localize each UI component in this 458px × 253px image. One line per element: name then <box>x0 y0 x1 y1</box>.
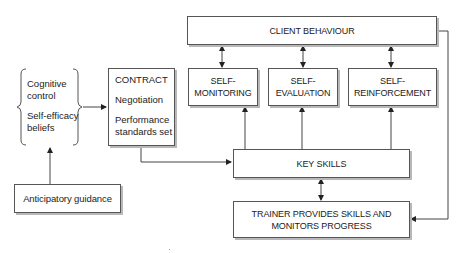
trainer-label-line2: MONITORS PROGRESS <box>271 220 371 232</box>
self-evaluation-label-line2: EVALUATION <box>276 87 331 99</box>
trainer-box: TRAINER PROVIDES SKILLS AND MONITORS PRO… <box>233 201 410 238</box>
trainer-label-line1: TRAINER PROVIDES SKILLS AND <box>252 208 392 220</box>
self-evaluation-label-line1: SELF- <box>290 75 315 87</box>
anticipatory-guidance-label: Anticipatory guidance <box>23 193 112 205</box>
diagram-canvas: CLIENT BEHAVIOUR SELF- MONITORING SELF- … <box>0 0 458 253</box>
beliefs-beliefs: beliefs <box>27 122 54 134</box>
beliefs-control: control <box>27 90 56 102</box>
beliefs-group: Cognitive control Self-efficacy beliefs <box>17 68 83 146</box>
beliefs-self-efficacy: Self-efficacy <box>27 110 79 122</box>
contract-box: CONTRACT Negotiation Performance standar… <box>108 68 175 146</box>
contract-standards-set: standards set <box>115 126 172 138</box>
self-reinforcement-box: SELF- REINFORCEMENT <box>348 68 437 106</box>
anticipatory-guidance-box: Anticipatory guidance <box>14 184 121 213</box>
stray-mark <box>169 249 170 250</box>
self-evaluation-box: SELF- EVALUATION <box>268 68 338 106</box>
self-monitoring-box: SELF- MONITORING <box>188 68 258 106</box>
key-skills-label: KEY SKILLS <box>297 158 347 170</box>
beliefs-cognitive: Cognitive <box>27 78 67 90</box>
self-monitoring-label-line1: SELF- <box>210 75 235 87</box>
key-skills-box: KEY SKILLS <box>233 149 410 178</box>
contract-negotiation: Negotiation <box>115 94 163 106</box>
client-behaviour-box: CLIENT BEHAVIOUR <box>187 16 437 45</box>
client-behaviour-label: CLIENT BEHAVIOUR <box>269 25 354 37</box>
self-reinforcement-label-line1: SELF- <box>380 75 405 87</box>
self-reinforcement-label-line2: REINFORCEMENT <box>354 87 431 99</box>
contract-title: CONTRACT <box>115 74 168 86</box>
self-monitoring-label-line2: MONITORING <box>194 87 251 99</box>
contract-performance: Performance <box>115 114 169 126</box>
